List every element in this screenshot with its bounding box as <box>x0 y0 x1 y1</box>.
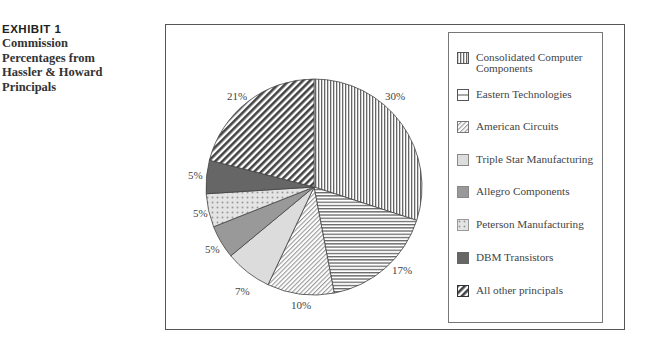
dots-swatch-icon <box>457 219 469 231</box>
legend-item-eastern: Eastern Technologies <box>457 89 572 101</box>
slice-label-triple-star: 7% <box>235 285 250 297</box>
diagonal-light-swatch-icon <box>457 121 469 133</box>
chart-legend: Consolidated ComputerComponents Eastern … <box>448 32 603 323</box>
legend-item-triple-star: Triple Star Manufacturing <box>457 154 593 166</box>
medium-gray-swatch-icon <box>457 186 469 198</box>
legend-item-consolidated: Consolidated ComputerComponents <box>457 52 583 74</box>
legend-item-allegro: Allegro Components <box>457 186 570 198</box>
legend-item-all-other: All other principals <box>457 285 563 297</box>
dark-gray-swatch-icon <box>457 252 469 264</box>
diagonal-dark-swatch-icon <box>457 285 469 297</box>
slice-label-dbm: 5% <box>188 169 203 181</box>
legend-item-peterson: Peterson Manufacturing <box>457 219 584 231</box>
vertical-lines-swatch-icon <box>457 52 469 64</box>
light-gray-swatch-icon <box>457 154 469 166</box>
slice-label-peterson: 5% <box>193 207 208 219</box>
slice-label-all-other: 21% <box>227 90 247 102</box>
slice-label-american: 10% <box>291 299 311 311</box>
slice-label-consolidated: 30% <box>385 90 405 102</box>
legend-item-dbm: DBM Transistors <box>457 252 553 264</box>
horizontal-lines-swatch-icon <box>457 89 469 101</box>
slice-label-eastern: 17% <box>392 264 412 276</box>
slice-label-allegro: 5% <box>205 243 220 255</box>
legend-item-american: American Circuits <box>457 121 558 133</box>
